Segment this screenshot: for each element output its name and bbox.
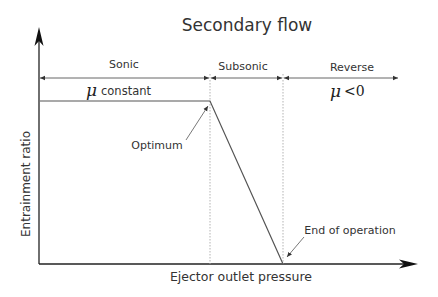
x-axis	[39, 260, 418, 269]
region-subsonic-label: Subsonic	[218, 60, 267, 73]
region-subsonic: Subsonic	[211, 60, 282, 78]
y-axis	[35, 27, 44, 264]
mu-symbol: μ	[86, 80, 97, 100]
optimum-annotation: Optimum	[131, 106, 208, 152]
x-axis-label: Ejector outlet pressure	[170, 269, 312, 284]
mu-constant-annotation: μ constant	[86, 80, 151, 100]
optimum-pointer-arrow	[186, 106, 208, 140]
end-of-operation-label: End of operation	[304, 224, 395, 237]
diagram-title: Secondary flow	[182, 15, 313, 35]
end-of-operation-annotation: End of operation	[287, 224, 396, 257]
diagram-canvas: Secondary flow Entrainment ratio Ejector…	[0, 0, 438, 297]
y-axis-label: Entrainment ratio	[19, 131, 33, 237]
mu-constant-label: constant	[101, 84, 151, 98]
region-reverse: Reverse	[284, 61, 398, 78]
mu-negative-annotation: μ <0	[330, 81, 365, 101]
entrainment-curve	[40, 101, 283, 264]
mu-negative-label: <0	[344, 83, 365, 99]
region-sonic: Sonic	[40, 58, 209, 78]
optimum-label: Optimum	[131, 139, 182, 152]
region-reverse-label: Reverse	[330, 61, 374, 74]
end-pointer-arrow	[287, 237, 304, 257]
region-sonic-label: Sonic	[109, 58, 139, 71]
mu-symbol-reverse: μ	[330, 81, 341, 101]
